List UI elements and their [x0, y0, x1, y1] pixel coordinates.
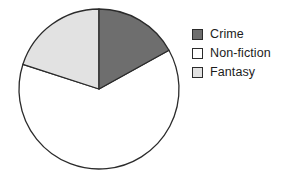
- legend-label-non-fiction: Non-fiction: [210, 47, 271, 60]
- legend-label-fantasy: Fantasy: [210, 66, 255, 79]
- legend-item-fantasy: Fantasy: [192, 63, 292, 82]
- legend-item-non-fiction: Non-fiction: [192, 44, 292, 63]
- legend-label-crime: Crime: [210, 28, 244, 41]
- legend-swatch-crime: [192, 29, 203, 40]
- legend-swatch-non-fiction: [192, 48, 203, 59]
- chart-legend: Crime Non-fiction Fantasy: [192, 25, 292, 82]
- pie-chart-figure: Crime Non-fiction Fantasy: [0, 0, 295, 180]
- pie-slices: [19, 9, 179, 169]
- legend-swatch-fantasy: [192, 67, 203, 78]
- legend-item-crime: Crime: [192, 25, 292, 44]
